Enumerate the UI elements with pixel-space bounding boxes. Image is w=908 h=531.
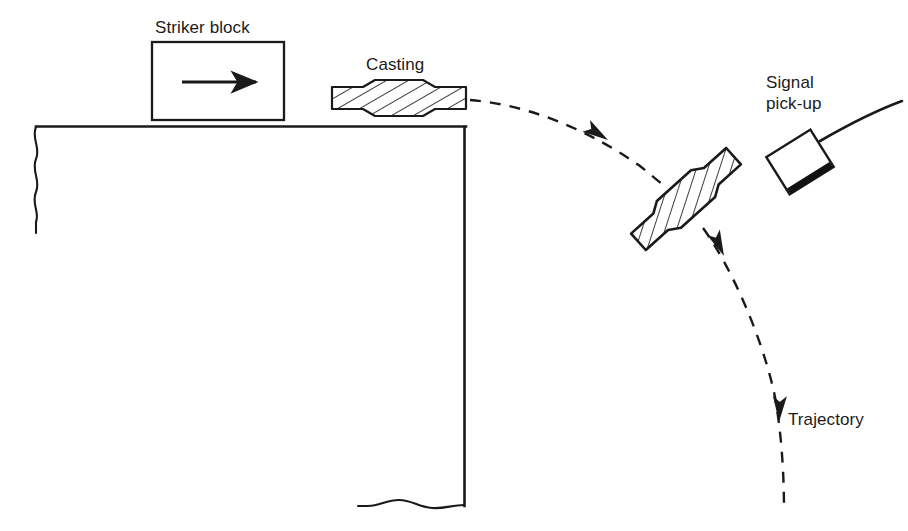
label-striker-block: Striker block — [155, 17, 250, 38]
label-casting: Casting — [366, 54, 424, 75]
casting-in-flight-outline — [626, 143, 745, 255]
trajectory-upper-segment — [470, 100, 662, 184]
casting-on-table-outline — [332, 80, 466, 116]
signal-pickup-sensor — [766, 101, 902, 194]
label-trajectory: Trajectory — [788, 409, 864, 430]
pickup-cable — [820, 101, 902, 141]
trajectory-arrow-middle — [707, 229, 730, 258]
casting-in-flight — [626, 143, 745, 255]
striker-block — [152, 42, 284, 120]
trajectory-lower-segment — [703, 228, 784, 510]
table-platform — [34, 127, 466, 509]
figure-caption — [0, 516, 908, 531]
trajectory-arrow-upper — [582, 120, 611, 146]
casting-on-table — [332, 80, 466, 116]
trajectory-arrow-lower — [772, 396, 787, 422]
platform-bottom-break-line — [358, 500, 464, 508]
platform-left-break-line — [34, 127, 37, 233]
figure-root: Striker block Casting Signal pick-up Tra… — [0, 0, 908, 531]
label-signal-pickup: Signal pick-up — [766, 72, 822, 114]
